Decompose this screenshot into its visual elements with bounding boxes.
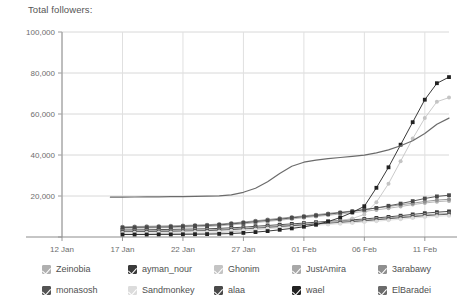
legend: Zeinobiaayman_nourGhonimJustAmira3arabaw… [42, 260, 463, 306]
checkbox-icon[interactable] [378, 265, 387, 274]
checkbox-icon[interactable] [292, 286, 301, 295]
legend-item-3arabawy[interactable]: 3arabawy [378, 264, 431, 274]
y-axis-tick-labels: 20,00040,00060,00080,000100,000 [26, 28, 55, 201]
legend-item-alaa[interactable]: alaa [214, 285, 245, 295]
svg-text:12 Jan: 12 Jan [50, 245, 74, 254]
checkbox-icon[interactable] [42, 286, 51, 295]
legend-item-label: monasosh [56, 285, 98, 295]
legend-item-label: 3arabawy [392, 264, 431, 274]
svg-text:27 Jan: 27 Jan [231, 245, 255, 254]
series-wael [121, 75, 451, 236]
legend-item-label: ayman_nour [142, 264, 192, 274]
legend-item-ayman_nour[interactable]: ayman_nour [128, 264, 192, 274]
checkbox-icon[interactable] [214, 286, 223, 295]
svg-text:17 Jan: 17 Jan [110, 245, 134, 254]
series-elbaradei [110, 118, 449, 197]
svg-text:40,000: 40,000 [31, 151, 56, 160]
svg-text:60,000: 60,000 [31, 110, 56, 119]
checkbox-icon[interactable] [128, 265, 137, 274]
legend-item-label: ElBaradei [392, 285, 431, 295]
x-axis-tick-labels: 12 Jan17 Jan22 Jan27 Jan01 Feb06 Feb11 F… [50, 245, 438, 254]
svg-text:01 Feb: 01 Feb [291, 245, 316, 254]
svg-text:06 Feb: 06 Feb [352, 245, 377, 254]
legend-item-justamira[interactable]: JustAmira [292, 264, 346, 274]
checkbox-icon[interactable] [292, 265, 301, 274]
legend-item-label: Ghonim [228, 264, 260, 274]
legend-item-elbaradei[interactable]: ElBaradei [378, 285, 431, 295]
svg-text:80,000: 80,000 [31, 69, 56, 78]
legend-item-label: Zeinobia [56, 264, 91, 274]
plot-area: 20,00040,00060,00080,000100,000 12 Jan17… [0, 0, 463, 260]
legend-item-zeinobia[interactable]: Zeinobia [42, 264, 91, 274]
legend-item-monasosh[interactable]: monasosh [42, 285, 98, 295]
checkbox-icon[interactable] [128, 286, 137, 295]
legend-item-wael[interactable]: wael [292, 285, 325, 295]
checkbox-icon[interactable] [214, 265, 223, 274]
svg-text:22 Jan: 22 Jan [171, 245, 195, 254]
legend-item-label: wael [306, 285, 325, 295]
gridlines [58, 32, 449, 241]
series-layer [110, 75, 451, 236]
followers-chart-panel: Total followers: 20,00040,00060,00080,00… [0, 0, 463, 306]
legend-item-label: Sandmonkey [142, 285, 195, 295]
svg-text:11 Feb: 11 Feb [413, 245, 438, 254]
legend-item-label: alaa [228, 285, 245, 295]
checkbox-icon[interactable] [378, 286, 387, 295]
legend-item-ghonim[interactable]: Ghonim [214, 264, 260, 274]
legend-item-sandmonkey[interactable]: Sandmonkey [128, 285, 195, 295]
legend-item-label: JustAmira [306, 264, 346, 274]
chart-svg: 20,00040,00060,00080,000100,000 12 Jan17… [0, 0, 463, 260]
checkbox-icon[interactable] [42, 265, 51, 274]
svg-text:100,000: 100,000 [26, 28, 55, 37]
svg-text:20,000: 20,000 [31, 192, 56, 201]
